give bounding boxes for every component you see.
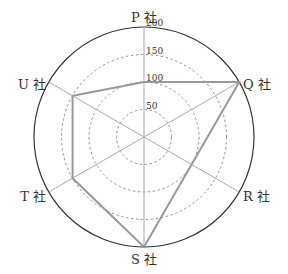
axis-line	[144, 82, 239, 137]
category-label-r: R 社	[243, 189, 270, 204]
category-label-p: P 社	[131, 10, 157, 25]
category-label-q: Q 社	[243, 77, 271, 92]
tick-labels: 50100150200	[146, 18, 163, 111]
category-label-s: S 社	[131, 252, 157, 267]
axis-line	[49, 137, 144, 192]
tick-label: 150	[146, 46, 163, 56]
category-label-u: U 社	[18, 77, 46, 92]
tick-label: 50	[146, 101, 158, 111]
chart-svg: 50100150200 P 社 Q 社 R 社 S 社 T 社 U 社	[0, 0, 288, 274]
axis-spokes	[49, 27, 240, 247]
category-label-t: T 社	[20, 189, 46, 204]
